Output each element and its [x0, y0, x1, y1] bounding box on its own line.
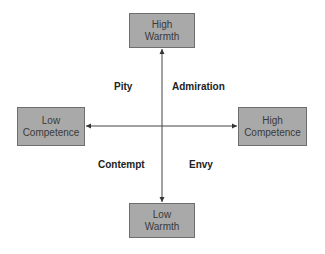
stereotype-content-diagram: High Warmth Low Warmth Low Competence Hi… [0, 0, 325, 254]
high-warmth-line1: High [152, 19, 173, 31]
low-warmth-line2: Warmth [145, 221, 180, 233]
high-competence-line2: Competence [244, 127, 301, 139]
high-competence-box: High Competence [238, 107, 307, 146]
low-warmth-line1: Low [153, 209, 171, 221]
low-competence-box: Low Competence [17, 107, 85, 146]
high-competence-line1: High [262, 115, 283, 127]
quadrant-admiration-label: Admiration [172, 81, 225, 92]
low-warmth-box: Low Warmth [129, 203, 195, 238]
low-competence-line1: Low [42, 115, 60, 127]
quadrant-pity-label: Pity [114, 81, 132, 92]
high-warmth-box: High Warmth [129, 13, 195, 48]
high-warmth-line2: Warmth [145, 31, 180, 43]
low-competence-line2: Competence [23, 127, 80, 139]
quadrant-envy-label: Envy [189, 159, 213, 170]
quadrant-contempt-label: Contempt [98, 159, 145, 170]
